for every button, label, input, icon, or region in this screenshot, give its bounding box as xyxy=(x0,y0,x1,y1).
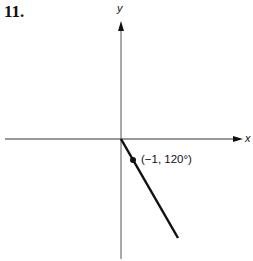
plotted-point xyxy=(130,157,136,163)
point-label: (−1, 120°) xyxy=(141,153,192,165)
polar-plot xyxy=(0,0,253,261)
y-axis-arrow-icon xyxy=(118,21,124,31)
x-axis-arrow-icon xyxy=(233,136,243,142)
x-axis-label: x xyxy=(245,132,251,144)
y-axis-label: y xyxy=(117,2,123,14)
